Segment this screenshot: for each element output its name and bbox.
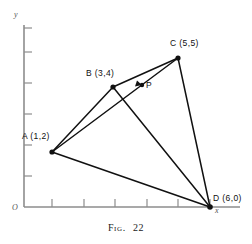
figure-container: A (1,2) B (3,4) C (5,5) D (6,0) P y x O … [0, 0, 252, 244]
segments-group [52, 58, 210, 207]
y-axis-label: y [14, 10, 18, 19]
point-label-c: C (5,5) [170, 38, 199, 48]
segment-a-c [52, 58, 178, 152]
point-label-d: D (6,0) [213, 193, 242, 203]
point-label-a: A (1,2) [22, 131, 50, 141]
origin-label: O [12, 203, 18, 212]
point-c-dot [175, 55, 180, 60]
figure-caption-number: 22 [133, 222, 144, 233]
segment-a-b [52, 87, 113, 152]
figure-caption: Fig. 22 [0, 222, 252, 233]
point-d-dot [207, 204, 213, 210]
figure-caption-word: Fig. [108, 222, 126, 233]
segment-d-a [52, 152, 210, 207]
x-axis-ticks [52, 199, 210, 207]
point-label-b: B (3,4) [86, 68, 114, 78]
segment-c-d [178, 58, 210, 207]
x-axis-label: x [215, 206, 219, 215]
point-label-p: P [146, 80, 152, 90]
y-axis-ticks [24, 28, 32, 176]
point-b-dot [110, 84, 115, 89]
segment-b-d [113, 87, 210, 207]
point-a-dot [49, 149, 54, 154]
